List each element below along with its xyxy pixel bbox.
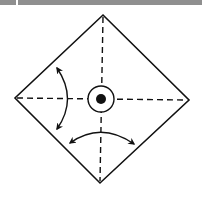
- bottom-curved-arrow-icon: [70, 132, 134, 144]
- center-dot: [96, 94, 106, 104]
- origami-diagram: [0, 0, 202, 198]
